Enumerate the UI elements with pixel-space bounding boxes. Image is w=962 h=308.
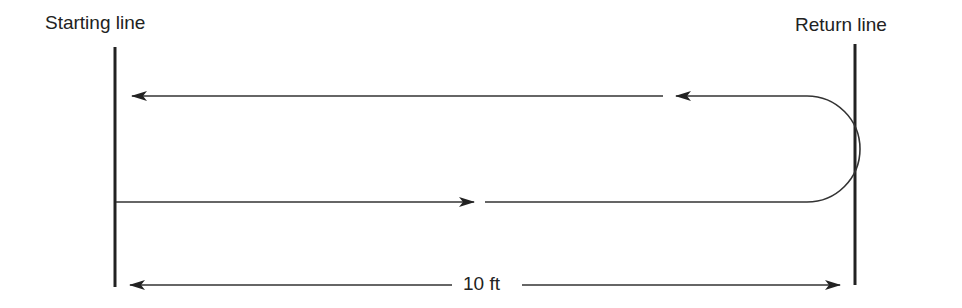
turnaround-path bbox=[485, 96, 860, 202]
shuttle-run-diagram bbox=[0, 0, 962, 308]
